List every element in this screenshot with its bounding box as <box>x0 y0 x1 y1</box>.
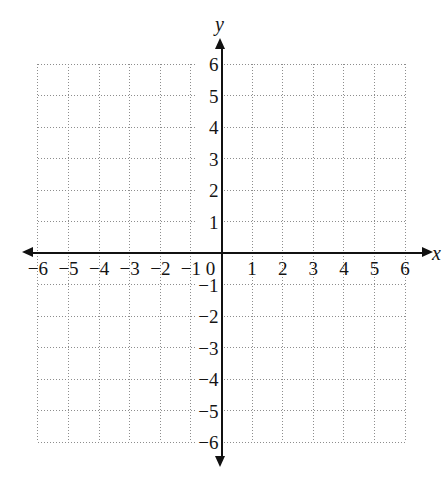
y-axis-arrow-up <box>215 38 225 49</box>
x-tick-label: 5 <box>370 259 380 278</box>
y-tick-label: −4 <box>198 370 218 389</box>
y-tick-label: −1 <box>198 276 218 295</box>
x-axis-arrow-left <box>22 247 33 257</box>
gridline-horizontal <box>38 379 198 380</box>
gridline-horizontal <box>224 127 406 128</box>
gridline-horizontal <box>38 64 198 65</box>
x-axis-line <box>33 252 422 254</box>
gridline-horizontal <box>224 64 406 65</box>
gridline-horizontal <box>224 158 406 159</box>
y-tick-label: 4 <box>209 118 219 137</box>
y-axis-arrow-down <box>215 456 225 467</box>
x-tick-label: −5 <box>58 259 78 278</box>
y-tick-label: −5 <box>198 402 218 421</box>
y-axis-label: y <box>215 14 224 34</box>
x-tick-label: 3 <box>309 259 319 278</box>
y-tick-label: −3 <box>198 339 218 358</box>
gridline-horizontal <box>38 442 198 443</box>
gridline-horizontal <box>38 127 198 128</box>
gridline-horizontal <box>38 316 198 317</box>
x-axis-label: x <box>432 243 441 263</box>
x-tick-label: 6 <box>400 259 410 278</box>
gridline-horizontal <box>38 410 198 411</box>
gridline-horizontal <box>38 190 198 191</box>
x-tick-label: −2 <box>150 259 170 278</box>
y-tick-label: −2 <box>198 307 218 326</box>
gridline-horizontal <box>224 379 406 380</box>
gridline-horizontal <box>38 284 198 285</box>
x-tick-label: 4 <box>339 259 349 278</box>
y-tick-label: −6 <box>198 433 218 452</box>
y-axis-line <box>221 48 223 457</box>
y-tick-label: 3 <box>209 150 219 169</box>
x-tick-label: −3 <box>120 259 140 278</box>
gridline-horizontal <box>224 284 406 285</box>
x-tick-label: −6 <box>28 259 48 278</box>
x-tick-label: 1 <box>247 259 257 278</box>
x-tick-label: −4 <box>89 259 109 278</box>
y-tick-label: 5 <box>209 87 219 106</box>
gridline-horizontal <box>38 158 198 159</box>
gridline-horizontal <box>224 410 406 411</box>
gridline-horizontal <box>224 190 406 191</box>
coordinate-plane-figure: −6−5−4−3−2−11234560654321−1−2−3−4−5−6 x … <box>0 0 445 479</box>
gridline-horizontal <box>224 95 406 96</box>
x-tick-label: 2 <box>278 259 288 278</box>
y-tick-label: 1 <box>209 213 219 232</box>
gridline-horizontal <box>224 316 406 317</box>
y-tick-label: 6 <box>209 55 219 74</box>
gridline-horizontal <box>38 95 198 96</box>
gridline-horizontal <box>224 221 406 222</box>
gridline-horizontal <box>224 347 406 348</box>
gridline-horizontal <box>38 347 198 348</box>
gridline-horizontal <box>38 221 198 222</box>
y-tick-label: 2 <box>209 181 219 200</box>
gridline-horizontal <box>224 442 406 443</box>
